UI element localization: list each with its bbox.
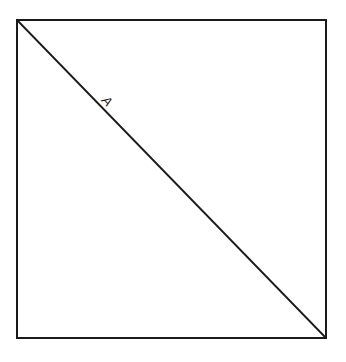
diagram-canvas: A <box>0 0 346 362</box>
diagonal-line <box>17 20 326 338</box>
